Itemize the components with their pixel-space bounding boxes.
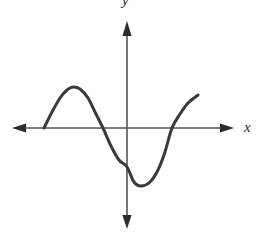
x-axis-left-arrow-icon [12, 124, 26, 133]
y-axis-label: y [122, 0, 129, 8]
x-axis-label: x [244, 120, 251, 135]
graph-figure: x y [0, 0, 266, 233]
coordinate-plane-plot [0, 0, 266, 233]
function-curve [44, 87, 198, 186]
y-axis-up-arrow-icon [122, 21, 131, 36]
y-axis-down-arrow-icon [122, 215, 131, 229]
x-axis-right-arrow-icon [220, 124, 234, 133]
